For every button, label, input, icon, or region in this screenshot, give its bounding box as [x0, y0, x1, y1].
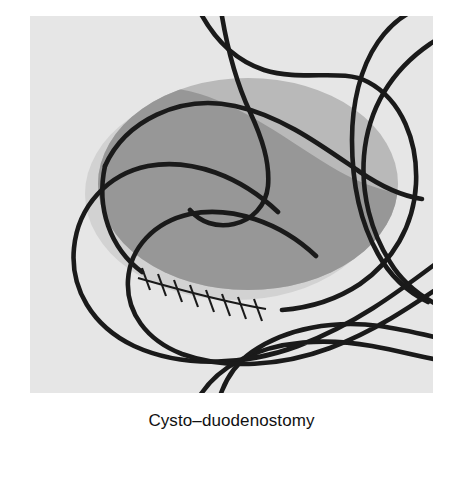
figure-caption: Cysto–duodenostomy [148, 411, 314, 431]
anatomy-illustration [30, 16, 433, 393]
caption-area: Cysto–duodenostomy [30, 393, 433, 453]
figure-root: Cysto–duodenostomy [0, 0, 455, 504]
illustration-panel [30, 16, 433, 393]
